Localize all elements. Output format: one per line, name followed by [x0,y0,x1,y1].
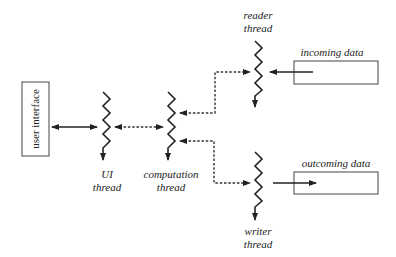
computation-thread-zigzag-icon [168,92,175,160]
ui-thread-zigzag-icon [103,92,110,160]
writer-thread-label-line2: thread [244,238,273,250]
ui-thread: UI thread [93,92,122,193]
writer-thread-zigzag-icon [255,152,262,220]
reader-thread-label-line1: reader [244,9,274,21]
incoming-data-label: incoming data [300,46,364,58]
outcoming-data-label: outcoming data [302,157,371,169]
reader-thread-label-line2: thread [244,22,273,34]
user-interface-label: user interface [29,89,41,149]
outcoming-data-box: outcoming data [294,157,378,194]
reader-thread: reader thread [244,9,274,107]
computation-thread-label-line1: computation [144,168,199,180]
thread-diagram: user interface UI thread computation thr… [0,0,396,257]
computation-thread: computation thread [144,92,199,193]
incoming-data-box: incoming data [294,46,378,84]
user-interface-box: user interface [22,82,49,156]
computation-to-reader-connector [180,72,250,113]
computation-thread-label-line2: thread [157,181,186,193]
ui-thread-label-line2: thread [93,181,122,193]
ui-thread-label-line1: UI [101,168,114,180]
writer-thread: writer thread [244,152,273,250]
writer-thread-label-line1: writer [245,225,273,237]
reader-thread-zigzag-icon [255,41,262,107]
